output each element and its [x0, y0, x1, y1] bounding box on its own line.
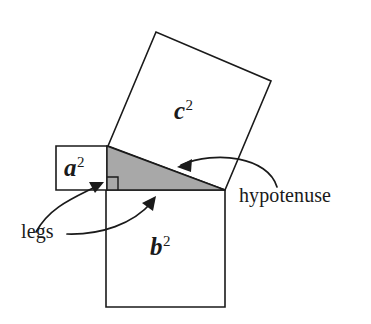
figure-canvas [0, 0, 371, 324]
label-legs: legs [21, 221, 54, 241]
label-c-squared-base: c [174, 97, 185, 124]
label-b-squared-exponent: 2 [163, 233, 171, 249]
label-c-squared-exponent: 2 [186, 97, 194, 113]
label-b-squared: b2 [150, 234, 171, 259]
label-c-squared: c2 [174, 98, 193, 123]
pythagorean-theorem-figure: a2 c2 b2 hypotenuse legs [0, 0, 371, 324]
label-hypotenuse: hypotenuse [239, 185, 331, 205]
label-a-squared: a2 [64, 155, 85, 180]
label-a-squared-base: a [64, 154, 77, 181]
label-a-squared-exponent: 2 [77, 154, 85, 170]
label-b-squared-base: b [150, 233, 163, 260]
